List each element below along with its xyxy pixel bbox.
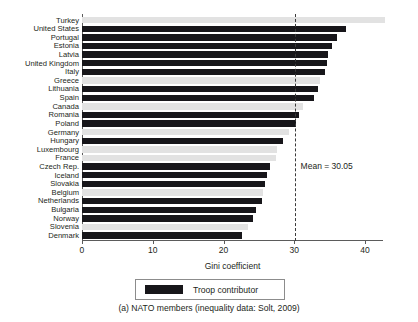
- x-tick-label: 20: [209, 245, 239, 255]
- figure-caption: (a) NATO members (inequality data: Solt,…: [0, 303, 418, 313]
- bar: [82, 86, 318, 92]
- bar: [82, 103, 303, 109]
- bar: [82, 232, 242, 238]
- bar-row: Denmark: [0, 231, 418, 240]
- bar: [82, 120, 296, 126]
- bar: [82, 198, 262, 204]
- bar: [82, 155, 276, 161]
- bar: [82, 17, 385, 23]
- x-axis-line: [82, 240, 383, 241]
- x-tick: [82, 240, 83, 244]
- x-axis-title: Gini coefficient: [82, 261, 383, 271]
- bar: [82, 34, 337, 40]
- x-tick: [153, 240, 154, 244]
- bar: [82, 138, 283, 144]
- x-tick-label: 10: [138, 245, 168, 255]
- x-tick-label: 0: [67, 245, 97, 255]
- bar: [82, 163, 270, 169]
- category-label: Denmark: [0, 231, 82, 240]
- bar: [82, 129, 289, 135]
- bar: [82, 112, 299, 118]
- bar: [82, 172, 267, 178]
- x-tick-label: 40: [350, 245, 380, 255]
- bar: [82, 224, 248, 230]
- x-tick-label: 30: [279, 245, 309, 255]
- legend: Troop contributor: [135, 279, 285, 300]
- x-tick: [365, 240, 366, 244]
- bar: [82, 77, 320, 83]
- mean-annotation-label: Mean = 30.05: [301, 161, 353, 171]
- bar: [82, 51, 328, 57]
- bar: [82, 95, 314, 101]
- troop-contributor-swatch: [145, 285, 183, 294]
- bar: [82, 26, 346, 32]
- bar: [82, 69, 325, 75]
- x-tick: [224, 240, 225, 244]
- legend-item-label: Troop contributor: [193, 285, 258, 295]
- bar: [82, 60, 327, 66]
- bar: [82, 146, 277, 152]
- figure-nato-gini: TurkeyUnited StatesPortugalEstoniaLatvia…: [0, 0, 418, 322]
- bar: [82, 181, 265, 187]
- mean-reference-line: [295, 14, 296, 241]
- bar: [82, 189, 263, 195]
- bar: [82, 215, 253, 221]
- bar: [82, 207, 256, 213]
